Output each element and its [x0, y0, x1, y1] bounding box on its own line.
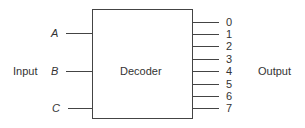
input-label-a: A [51, 28, 58, 39]
output-label-1: 1 [226, 29, 232, 40]
output-group-label: Output [258, 66, 291, 77]
output-line-5 [193, 84, 219, 85]
output-line-1 [193, 34, 219, 35]
output-line-3 [193, 59, 219, 60]
input-line-c [68, 108, 92, 109]
input-line-a [66, 33, 92, 34]
output-label-4: 4 [226, 66, 232, 77]
decoder-block [92, 9, 193, 119]
input-label-b: B [51, 66, 58, 77]
output-label-5: 5 [226, 79, 232, 90]
output-line-0 [193, 22, 219, 23]
input-group-label: Input [13, 66, 37, 77]
output-label-0: 0 [226, 17, 232, 28]
output-line-6 [193, 96, 219, 97]
output-line-2 [193, 46, 219, 47]
input-label-c: C [52, 103, 60, 114]
output-label-2: 2 [226, 41, 232, 52]
output-label-6: 6 [226, 91, 232, 102]
decoder-label: Decoder [120, 66, 162, 77]
input-line-b [66, 71, 92, 72]
output-label-3: 3 [226, 54, 232, 65]
output-label-7: 7 [226, 103, 232, 114]
output-line-4 [193, 71, 219, 72]
output-line-7 [193, 108, 219, 109]
